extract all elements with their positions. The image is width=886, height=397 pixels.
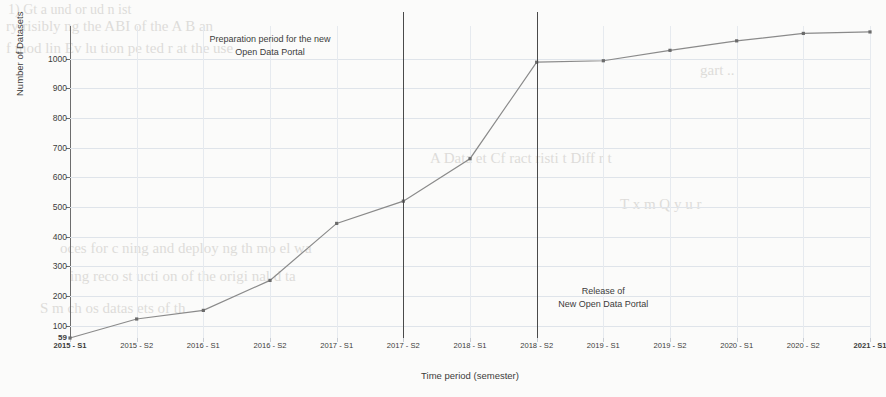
data-point-marker	[468, 157, 471, 160]
y-tick-label: 500	[7, 203, 67, 212]
x-tick-label: 2015 - S1	[54, 342, 87, 350]
y-tick-label: 100	[7, 322, 67, 331]
x-tick-label: 2017 - S1	[320, 342, 353, 350]
data-point-marker	[135, 317, 138, 320]
event-vline-preparation-period	[403, 12, 404, 338]
data-point-marker	[735, 39, 738, 42]
annotation-line: New Open Data Portal	[558, 298, 648, 311]
annotation-line: Open Data Portal	[209, 46, 330, 59]
x-axis-title: Time period (semester)	[70, 370, 870, 381]
y-tick-label: 900	[7, 84, 67, 93]
x-gridline	[870, 26, 871, 338]
x-tick-label: 2015 - S2	[120, 342, 153, 350]
x-tick-label: 2020 - S1	[720, 342, 753, 350]
y-tick-label: 300	[7, 262, 67, 271]
series-polyline	[70, 32, 870, 338]
data-point-marker	[68, 336, 71, 339]
x-tick-label: 2019 - S1	[587, 342, 620, 350]
data-series-line	[70, 26, 870, 338]
x-tick-label: 2019 - S2	[654, 342, 687, 350]
x-tick-label: 2020 - S2	[787, 342, 820, 350]
y-tick-label: 800	[7, 114, 67, 123]
y-tick-label: 1000	[7, 55, 67, 64]
y-tick-label: 200	[7, 292, 67, 301]
y-tick-label: 600	[7, 173, 67, 182]
annotation-line: Release of	[558, 285, 648, 298]
y-tick-label: 400	[7, 233, 67, 242]
annotation-portal-release: Release ofNew Open Data Portal	[558, 285, 648, 311]
data-point-marker	[602, 59, 605, 62]
x-tick-label: 2018 - S1	[454, 342, 487, 350]
data-point-marker	[268, 279, 271, 282]
x-tick-label: 2016 - S2	[254, 342, 287, 350]
x-tick-label: 2016 - S1	[187, 342, 220, 350]
x-tick-label: 2021 - S1	[854, 342, 886, 350]
y-tick-label: 700	[7, 144, 67, 153]
data-point-marker	[802, 32, 805, 35]
event-vline-portal-release	[537, 12, 538, 338]
plot-area: 1002003004005006007008009001000592015 - …	[70, 26, 870, 338]
annotation-preparation-period: Preparation period for the newOpen Data …	[209, 33, 330, 59]
annotation-line: Preparation period for the new	[209, 33, 330, 46]
data-point-marker	[868, 30, 871, 33]
x-tick-label: 2018 - S2	[520, 342, 553, 350]
data-point-marker	[335, 222, 338, 225]
data-point-marker	[668, 49, 671, 52]
x-tick-label: 2017 - S2	[387, 342, 420, 350]
data-point-marker	[202, 309, 205, 312]
